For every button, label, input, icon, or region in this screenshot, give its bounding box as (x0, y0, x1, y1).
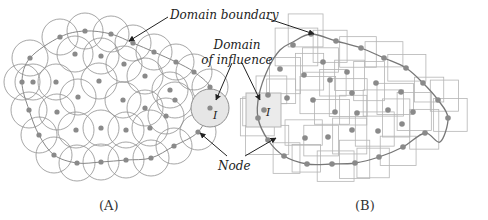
node (255, 115, 261, 121)
node (98, 159, 103, 164)
nodes-b (255, 31, 451, 167)
node (172, 97, 177, 102)
node (98, 125, 103, 130)
node (207, 84, 212, 89)
node (385, 107, 391, 113)
node (420, 80, 426, 86)
node (358, 45, 364, 51)
node (54, 109, 59, 114)
node (173, 59, 178, 64)
influence-rectangle (410, 109, 439, 149)
node (26, 107, 31, 112)
node (142, 73, 147, 78)
node (72, 51, 77, 56)
node (381, 55, 387, 61)
node (75, 94, 80, 99)
node (435, 97, 441, 103)
node (195, 129, 200, 134)
node (27, 55, 32, 60)
domain-of-influence-label-line2: of influence (196, 53, 278, 67)
influence-rectangle (335, 60, 365, 90)
node (142, 105, 147, 110)
influence-rectangle (317, 151, 354, 181)
node (410, 109, 416, 115)
node (329, 161, 335, 167)
node (57, 34, 62, 39)
node (281, 153, 287, 159)
node (108, 31, 113, 36)
node (120, 97, 125, 102)
node (344, 69, 350, 75)
node (73, 127, 78, 132)
influence-marker-b: I (266, 106, 270, 120)
node (53, 79, 58, 84)
node (398, 89, 404, 95)
influence-rectangle (292, 144, 320, 172)
node (310, 97, 316, 103)
node (375, 128, 381, 134)
node (320, 59, 326, 65)
caption-b: (B) (355, 198, 375, 213)
node (349, 90, 355, 96)
node (207, 105, 212, 110)
influence-rectangle (314, 99, 349, 124)
node (354, 110, 360, 116)
arrow-node-b (245, 138, 276, 156)
node (403, 65, 409, 71)
node (265, 92, 271, 98)
node (30, 79, 35, 84)
node (302, 135, 308, 141)
node (376, 154, 382, 160)
influence-marker-a: I (213, 109, 217, 123)
node (123, 127, 128, 132)
influence-rectangle (382, 99, 409, 137)
node (325, 134, 331, 140)
node (96, 78, 101, 83)
node (277, 66, 283, 72)
node (349, 127, 355, 133)
influence-rectangle (380, 136, 416, 165)
node (191, 69, 196, 74)
node (36, 132, 41, 137)
node (82, 28, 87, 33)
node-label: Node (218, 159, 251, 173)
node (422, 130, 428, 136)
panel-b-rectangular-support (240, 14, 467, 181)
node (151, 49, 156, 54)
arrow-node-a (200, 133, 227, 156)
node (373, 80, 379, 86)
node (148, 155, 153, 160)
node (400, 144, 406, 150)
domain-of-influence-label-line1: Domain (207, 38, 267, 52)
influence-rectangle (303, 48, 339, 72)
influence-rectangle (355, 112, 394, 146)
node (147, 125, 152, 130)
node (399, 121, 405, 127)
node (51, 152, 56, 157)
node (333, 38, 339, 44)
node (352, 160, 358, 166)
node (290, 42, 296, 48)
caption-a: (A) (99, 198, 119, 213)
node (74, 160, 79, 165)
node (445, 115, 451, 121)
node (327, 77, 333, 83)
node (121, 61, 126, 66)
meshless-domain-diagram (0, 0, 488, 220)
node (123, 157, 128, 162)
node (304, 161, 310, 167)
node (284, 95, 290, 101)
influence-rectangle (357, 148, 389, 178)
arrow-boundary-a (129, 17, 168, 41)
node (163, 113, 168, 118)
domain-boundary-label: Domain boundary (170, 8, 278, 22)
node (301, 72, 307, 78)
node (98, 53, 103, 58)
node (19, 79, 24, 84)
panel-a-circular-support (4, 13, 229, 181)
node (171, 143, 176, 148)
node (332, 109, 338, 115)
node (167, 87, 172, 92)
node (130, 40, 135, 45)
